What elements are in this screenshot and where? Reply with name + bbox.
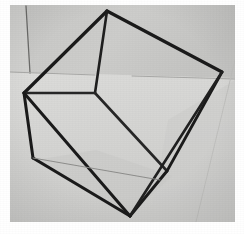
photo-frame — [0, 0, 244, 234]
wireframe-cube-photograph — [0, 0, 244, 234]
photo-vignette — [10, 5, 235, 222]
screenshot-root: Black-and-white photograph of a skeletal… — [0, 0, 244, 234]
